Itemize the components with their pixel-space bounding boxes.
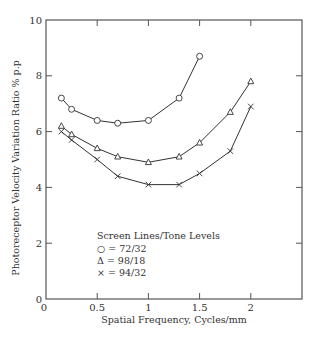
legend-title: Screen Lines/Tone Levels [97,230,220,241]
series-line [61,56,199,123]
triangle-marker [58,123,64,129]
series-72-32 [58,53,202,126]
y-tick-label: 6 [36,126,42,137]
circle-marker [69,106,75,112]
circle-marker [94,117,100,123]
x-marker [197,171,203,177]
circle-marker [197,53,203,59]
legend-entry-x: × = 94/32 [97,267,146,278]
circle-marker [115,120,121,126]
line-chart: 00.511.520246810 Spatial Frequency, Cycl… [0,0,317,340]
x-marker [94,157,100,163]
x-marker [69,137,75,143]
x-axis-label: Spatial Frequency, Cycles/mm [101,314,247,325]
triangle-marker [176,153,182,159]
data-series [58,53,253,187]
plot-frame [46,20,302,299]
series-line [61,81,250,162]
y-tick-label: 8 [36,70,42,81]
legend: Screen Lines/Tone Levels ○ = 72/32 Δ = 9… [97,230,220,278]
circle-marker [145,117,151,123]
y-tick-label: 10 [29,15,42,26]
series-line [61,106,250,184]
y-axis-label: Photoreceptor Velocity Variation Ratio %… [10,60,21,275]
legend-entry-triangle: Δ = 98/18 [97,255,145,266]
x-marker [248,104,254,110]
axis-ticks: 00.511.520246810 [29,15,302,314]
y-tick-label: 4 [36,182,42,193]
y-tick-label: 0 [36,294,42,305]
legend-entry-circle: ○ = 72/32 [97,243,147,254]
triangle-marker [248,78,254,84]
x-marker [59,129,65,135]
x-tick-label: 0.5 [89,302,105,313]
x-marker [228,148,234,154]
x-tick-label: 1.5 [192,302,208,313]
plot-border [46,20,302,299]
y-tick-label: 2 [36,238,42,249]
x-tick-label: 2 [248,302,254,313]
triangle-marker [69,131,75,137]
circle-marker [58,95,64,101]
circle-marker [176,95,182,101]
x-tick-label: 1 [145,302,151,313]
x-marker [115,173,121,179]
triangle-marker [94,145,100,151]
